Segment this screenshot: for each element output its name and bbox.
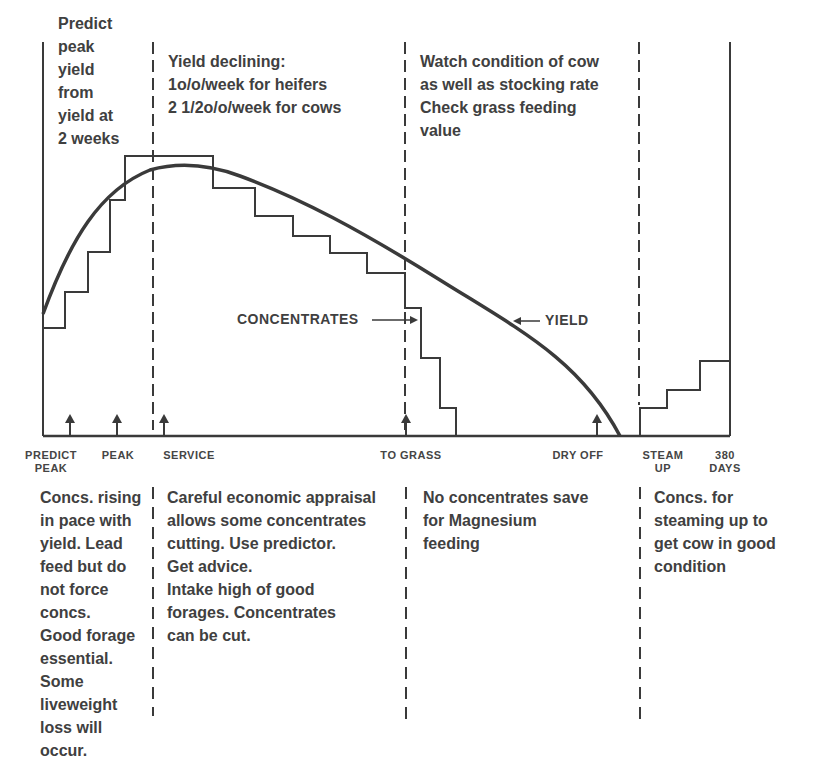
label-service: SERVICE xyxy=(158,449,220,462)
marker-to-grass xyxy=(401,414,411,435)
note-phase-1: Concs. rising in pace with yield. Lead f… xyxy=(40,486,141,762)
label-peak: PEAK xyxy=(98,449,138,462)
concentrates-step-line xyxy=(43,156,456,436)
note-watch-condition: Watch condition of cow as well as stocki… xyxy=(420,50,599,142)
concentrates-arrowhead-icon xyxy=(410,316,418,324)
label-380-days: 380 DAYS xyxy=(707,449,743,475)
yield-arrowhead-icon xyxy=(513,317,521,325)
label-predict-peak: PREDICT PEAK xyxy=(20,449,82,475)
label-to-grass: TO GRASS xyxy=(374,449,448,462)
label-steam-up: STEAM UP xyxy=(640,449,686,475)
yield-curve xyxy=(43,165,620,436)
label-dry-off: DRY OFF xyxy=(546,449,610,462)
note-predict-peak: Predict peak yield from yield at 2 weeks xyxy=(58,12,119,150)
note-phase-2: Careful economic appraisal allows some c… xyxy=(167,486,376,647)
marker-service xyxy=(159,414,169,435)
marker-dry-off xyxy=(592,414,602,435)
marker-predict-peak xyxy=(65,414,75,435)
marker-peak xyxy=(112,414,122,435)
steam-up-step-line xyxy=(640,361,730,436)
note-phase-3: No concentrates save for Magnesium feedi… xyxy=(423,486,588,555)
note-phase-4: Concs. for steaming up to get cow in goo… xyxy=(654,486,776,578)
note-yield-declining: Yield declining: 1o/o/week for heifers 2… xyxy=(168,50,341,119)
yield-label: YIELD xyxy=(545,312,589,328)
concentrates-label: CONCENTRATES xyxy=(237,311,359,327)
